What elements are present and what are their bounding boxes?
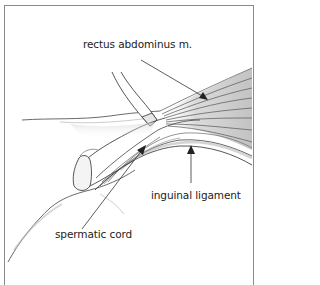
vessel-tube	[112, 72, 157, 126]
label-inguinal-ligament: inguinal ligament	[151, 189, 241, 201]
label-spermatic-cord: spermatic cord	[55, 228, 132, 240]
rectus-abdominus-muscle	[158, 68, 252, 150]
leader-inguinal	[187, 145, 195, 183]
leader-spermatic	[82, 145, 146, 229]
label-rectus-abdominus: rectus abdominus m.	[83, 38, 192, 50]
